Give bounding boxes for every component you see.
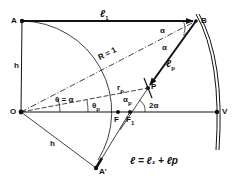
- point-F1: [128, 110, 132, 114]
- label-l1: ℓ1: [100, 9, 109, 21]
- label-V: V: [222, 108, 227, 116]
- label-2alpha: 2α: [149, 102, 158, 110]
- mirror-arc-outer: [196, 14, 217, 150]
- label-theta-alpha: θ = α: [55, 96, 73, 104]
- angle-thetap-arc: [87, 100, 88, 112]
- point-F: [116, 110, 120, 114]
- unit-circle-arc: [22, 21, 112, 160]
- label-F1: F1: [126, 116, 134, 126]
- point-V: [215, 110, 219, 114]
- point-A-prime: [94, 166, 98, 170]
- label-alpha-mid: α: [162, 44, 167, 52]
- point-O: [19, 110, 24, 115]
- label-rp: rp: [117, 84, 124, 94]
- label-theta-p: θp: [92, 102, 100, 112]
- label-O: O: [10, 108, 16, 116]
- label-h-vertical: h: [14, 62, 19, 70]
- line-AO: [21, 21, 22, 112]
- label-lp: ℓp: [166, 59, 175, 71]
- label-h-diagonal: h: [50, 140, 55, 148]
- point-P: [146, 86, 150, 90]
- label-alpha-p: αp: [123, 96, 132, 106]
- label-A: A: [11, 17, 17, 25]
- point-B: [194, 19, 198, 23]
- equation: ℓ = ℓ₁ + ℓp: [130, 156, 178, 166]
- angle-2alpha-arc: [139, 100, 145, 112]
- line-OA-prime: [21, 112, 96, 168]
- ray-lp: [150, 21, 196, 85]
- point-A: [20, 19, 24, 23]
- label-alpha-top: α: [160, 27, 165, 35]
- label-F: F: [114, 116, 119, 124]
- label-B: B: [201, 17, 207, 25]
- label-P: P: [151, 83, 156, 91]
- optics-diagram: A B O V P F F1 A' ℓ1 ℓp h h R = 1 rp θ =…: [0, 0, 238, 180]
- label-A-prime: A': [99, 168, 107, 176]
